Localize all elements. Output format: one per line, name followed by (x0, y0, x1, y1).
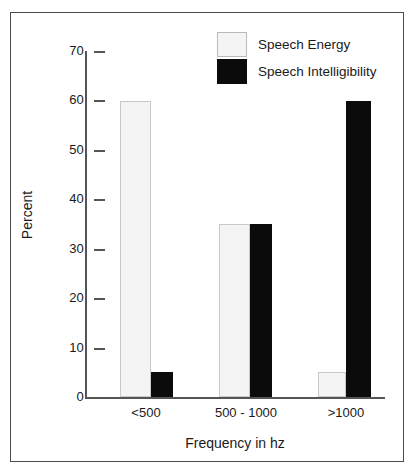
bar-speech-intelligibility-500-1000 (250, 224, 272, 397)
legend-item-speech-energy: Speech Energy (217, 31, 407, 58)
chart-figure: 70 60 50 40 30 20 10 0 (0, 0, 415, 470)
bar-speech-energy-lt500 (120, 101, 151, 397)
y-tick-10: 10 (22, 348, 84, 350)
y-tick-label-20: 20 (44, 291, 84, 304)
chart-legend: Speech Energy Speech Intelligibility (217, 31, 407, 85)
y-tick-70: 70 (22, 51, 84, 53)
legend-label-speech-energy: Speech Energy (258, 38, 350, 52)
legend-label-speech-intelligibility: Speech Intelligibility (258, 65, 377, 79)
y-tick-label-60: 60 (44, 93, 84, 106)
y-tick-label-0: 0 (44, 390, 84, 403)
y-tick-20: 20 (22, 298, 84, 300)
y-tick-mark (94, 298, 105, 300)
bar-speech-intelligibility-lt500 (151, 372, 173, 397)
y-tick-mark (94, 100, 105, 102)
y-tick-label-70: 70 (44, 44, 84, 57)
legend-swatch-icon-speech-intelligibility (217, 59, 247, 84)
y-tick-label-40: 40 (44, 192, 84, 205)
y-tick-label-30: 30 (44, 242, 84, 255)
y-axis-line (85, 51, 87, 399)
bar-speech-energy-500-1000 (219, 224, 250, 397)
y-tick-mark (94, 397, 105, 399)
bar-speech-energy-gt1000 (318, 372, 346, 397)
y-tick-50: 50 (22, 150, 84, 152)
y-tick-mark (94, 199, 105, 201)
y-tick-label-50: 50 (44, 143, 84, 156)
bar-speech-intelligibility-gt1000 (346, 101, 371, 397)
y-axis-title: Percent (20, 170, 34, 260)
y-tick-0: 0 (22, 397, 84, 399)
y-tick-label-10: 10 (44, 341, 84, 354)
x-axis-line (85, 397, 385, 399)
y-tick-mark (94, 51, 105, 53)
y-tick-mark (94, 150, 105, 152)
x-tick-label-500-1000: 500 - 1000 (196, 406, 296, 420)
y-tick-mark (94, 348, 105, 350)
y-tick-mark (94, 249, 105, 251)
plot-area: 70 60 50 40 30 20 10 0 (0, 0, 415, 470)
legend-swatch-icon-speech-energy (217, 32, 247, 57)
x-axis-title: Frequency in hz (85, 436, 385, 450)
x-tick-label-gt1000: >1000 (304, 406, 388, 420)
y-tick-60: 60 (22, 100, 84, 102)
x-tick-label-lt500: <500 (106, 406, 186, 420)
legend-item-speech-intelligibility: Speech Intelligibility (217, 58, 407, 85)
